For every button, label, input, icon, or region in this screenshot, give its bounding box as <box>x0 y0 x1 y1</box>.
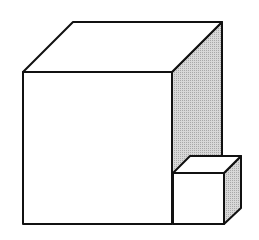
cubes-diagram <box>0 0 259 240</box>
small-cube-front-face <box>173 173 224 224</box>
small-cube <box>173 156 241 224</box>
large-cube-front-face <box>23 72 172 224</box>
